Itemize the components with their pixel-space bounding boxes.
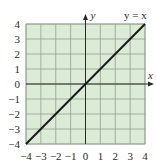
- y-tick-label: 3: [15, 33, 21, 45]
- y-tick-label: 4: [15, 18, 21, 30]
- y-tick-label: −2: [8, 108, 20, 120]
- y-tick-label: −1: [8, 93, 20, 105]
- y-axis-label: y: [90, 9, 96, 21]
- y-axis-arrow-icon: [83, 14, 88, 20]
- y-tick-label: 0: [15, 78, 21, 90]
- x-axis-arrow-icon: [148, 82, 154, 87]
- y-tick-label: 1: [15, 63, 21, 75]
- y-tick-label: −4: [8, 138, 20, 150]
- x-axis-label: x: [147, 69, 153, 81]
- x-tick-label: 3: [127, 150, 133, 162]
- y-tick-label: −3: [8, 123, 20, 135]
- line-chart: −4−3−2−101234 −4−3−2−101234 x y y = x: [0, 0, 156, 168]
- x-tick-label: −4: [20, 150, 32, 162]
- series-label: y = x: [124, 9, 147, 21]
- x-tick-label: −3: [35, 150, 47, 162]
- x-tick-label: 1: [98, 150, 104, 162]
- x-tick-labels: −4−3−2−101234: [20, 150, 148, 162]
- y-tick-labels: −4−3−2−101234: [8, 18, 20, 150]
- x-tick-label: 0: [83, 150, 89, 162]
- y-tick-label: 2: [15, 48, 21, 60]
- x-tick-label: 4: [142, 150, 148, 162]
- x-tick-label: −1: [65, 150, 77, 162]
- x-tick-label: 2: [113, 150, 119, 162]
- x-tick-label: −2: [50, 150, 62, 162]
